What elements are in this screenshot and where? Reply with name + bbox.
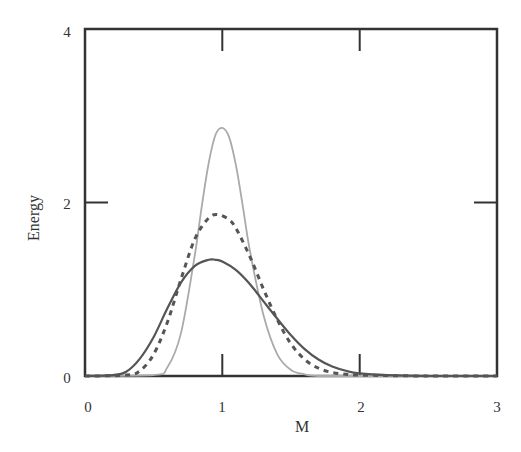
series-solid-light: [85, 128, 497, 376]
x-axis-label: M: [295, 418, 309, 435]
y-tick-label-2: 2: [63, 196, 71, 212]
plot-frame: [85, 29, 497, 376]
series-dashed-dark: [85, 214, 497, 376]
axis-ticks: [85, 29, 497, 376]
y-tick-label-0: 0: [63, 370, 71, 386]
y-tick-label-4: 4: [63, 24, 71, 40]
x-tick-label-3: 3: [493, 399, 501, 415]
x-tick-label-0: 0: [84, 399, 92, 415]
series-solid-dark: [85, 259, 497, 376]
y-axis-label: Energy: [25, 195, 43, 241]
x-tick-label-1: 1: [218, 399, 226, 415]
energy-vs-m-chart: 4 2 0 0 1 2 3 M Energy: [0, 0, 521, 452]
x-tick-label-2: 2: [357, 399, 365, 415]
series-layer: [85, 128, 497, 376]
